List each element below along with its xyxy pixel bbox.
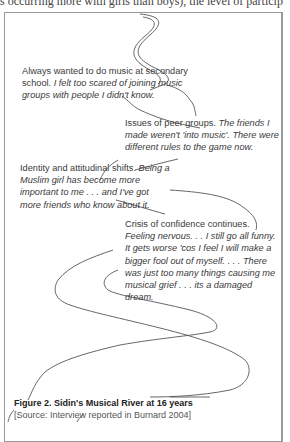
note-quote: Feeling nervous. . . I still go all funn… — [125, 231, 275, 302]
note-secondary-school: Always wanted to do music at secondary s… — [22, 65, 212, 102]
caption-source: [Source: Interview reported in Burnard 2… — [14, 409, 193, 421]
note-peer-groups: Issues of peer groups. The friends I mad… — [125, 117, 285, 154]
note-heading: Issues of peer groups. — [125, 118, 218, 128]
note-heading: Crisis of confidence continues. — [125, 219, 250, 229]
note-heading: Identity and attitudinal shifts. — [20, 163, 139, 173]
note-crisis: Crisis of confidence continues. Feeling … — [125, 218, 281, 303]
note-identity: Identity and attitudinal shifts. Being a… — [20, 162, 170, 211]
figure-caption: Figure 2. Sidin's Musical River at 16 ye… — [14, 397, 193, 421]
caption-title: Figure 2. Sidin's Musical River at 16 ye… — [14, 397, 193, 409]
